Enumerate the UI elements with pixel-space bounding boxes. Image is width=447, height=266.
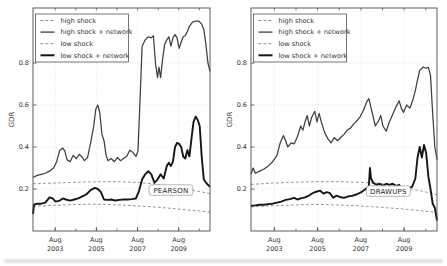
panel-pearson: PEARSONhigh shockhigh shock + networklow… [0, 0, 223, 266]
y-tick-label: 0.2 [237, 185, 247, 193]
x-tick-label-month: Aug [172, 236, 185, 244]
y-axis-label: GDR [226, 112, 234, 128]
x-tick-label-year: 2007 [129, 245, 146, 253]
x-tick-label-month: Aug [131, 236, 144, 244]
panel-drawups: DRAWUPShigh shockhigh shock + networklow… [223, 0, 447, 266]
x-tick-label-year: 2003 [47, 245, 64, 253]
annotation-label: DRAWUPS [370, 188, 407, 196]
cropped-caption-band [4, 259, 443, 263]
series-line-low-shock-network [251, 145, 437, 221]
y-tick-label: 0.8 [237, 59, 247, 67]
series-line-high-shock-network [251, 67, 437, 174]
legend-label: low shock + network [61, 52, 130, 60]
x-tick-label-year: 2009 [396, 245, 413, 253]
series-line-low-shock [251, 204, 437, 212]
legend-label: low shock [61, 40, 94, 48]
annotation-label: PEARSON [153, 187, 188, 195]
x-tick-label-year: 2003 [266, 245, 283, 253]
x-tick-label-month: Aug [311, 236, 324, 244]
y-tick-label: 0.6 [19, 101, 29, 109]
y-axis-label: GDR [8, 112, 16, 128]
legend-label: high shock + network [279, 28, 351, 36]
y-tick-label: 0.4 [19, 143, 29, 151]
legend-label: low shock + network [279, 52, 348, 60]
chart-canvas-left: PEARSONhigh shockhigh shock + networklow… [0, 0, 223, 266]
x-tick-label-month: Aug [355, 236, 368, 244]
x-tick-label-year: 2007 [353, 245, 370, 253]
x-tick-label-month: Aug [268, 236, 281, 244]
y-tick-label: 0.2 [19, 185, 29, 193]
x-tick-label-year: 2005 [309, 245, 326, 253]
series-line-low-shock [33, 204, 210, 212]
legend-label: high shock + network [61, 28, 133, 36]
legend-label: low shock [279, 40, 312, 48]
x-tick-label-month: Aug [398, 236, 411, 244]
y-tick-label: 0.6 [237, 101, 247, 109]
x-tick-label-month: Aug [90, 236, 103, 244]
two-panel-line-figure: PEARSONhigh shockhigh shock + networklow… [0, 0, 447, 266]
series-line-low-shock-network [33, 117, 210, 215]
chart-canvas-right: DRAWUPShigh shockhigh shock + networklow… [223, 0, 447, 266]
x-tick-label-year: 2005 [88, 245, 105, 253]
y-tick-label: 0.8 [19, 59, 29, 67]
x-tick-label-year: 2009 [170, 245, 187, 253]
x-tick-label-month: Aug [49, 236, 62, 244]
legend-label: high shock [61, 17, 97, 25]
y-tick-label: 0.4 [237, 143, 247, 151]
legend-label: high shock [279, 17, 315, 25]
